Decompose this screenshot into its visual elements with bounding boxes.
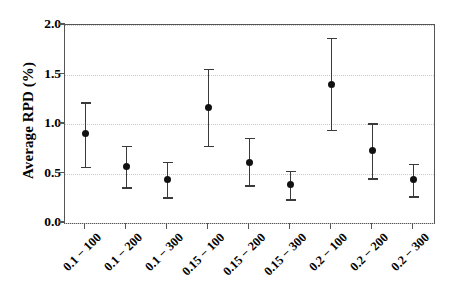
gridline-y bbox=[65, 25, 434, 26]
x-axis-tick-mark bbox=[371, 223, 372, 229]
x-axis-tick-label: 0.15 − 100 bbox=[179, 231, 226, 278]
errorbar-cap-lower bbox=[245, 185, 255, 187]
data-point-marker bbox=[328, 81, 335, 88]
x-axis-tick-label: 0.15 − 200 bbox=[220, 231, 267, 278]
errorbar-cap-upper bbox=[327, 38, 337, 40]
x-axis-tick-label: 0.15 − 300 bbox=[261, 231, 308, 278]
errorbar-cap-upper bbox=[409, 164, 419, 166]
data-point-marker bbox=[410, 176, 417, 183]
x-axis-tick-label: 0.1 − 100 bbox=[61, 231, 104, 274]
y-axis-title-text: Average RPD (%) bbox=[20, 62, 37, 179]
errorbar-cap-upper bbox=[122, 146, 132, 148]
errorbar-cap-lower bbox=[409, 196, 419, 198]
errorbar-cap-lower bbox=[81, 167, 91, 169]
data-point-marker bbox=[205, 104, 212, 111]
x-axis-tick-marks bbox=[64, 223, 433, 231]
errorbar-cap-upper bbox=[286, 171, 296, 173]
errorbar-cap-lower bbox=[368, 178, 378, 180]
x-axis-tick-label: 0.1 − 200 bbox=[102, 231, 145, 274]
data-point-marker bbox=[82, 130, 89, 137]
chart-figure: Average RPD (%) 0.00.51.01.52.0 0.1 − 10… bbox=[0, 0, 453, 300]
errorbar-cap-lower bbox=[327, 130, 337, 132]
x-axis-tick-mark bbox=[330, 223, 331, 229]
data-point-marker bbox=[287, 181, 294, 188]
errorbar-cap-upper bbox=[204, 69, 214, 71]
x-axis-tick-labels: 0.1 − 1000.1 − 2000.1 − 3000.15 − 1000.1… bbox=[64, 231, 433, 299]
errorbar-cap-lower bbox=[286, 199, 296, 201]
gridline-y bbox=[65, 124, 434, 125]
data-point-marker bbox=[123, 163, 130, 170]
x-axis-tick-mark bbox=[166, 223, 167, 229]
x-axis-tick-mark bbox=[125, 223, 126, 229]
gridline-y bbox=[65, 75, 434, 76]
data-point-marker bbox=[164, 176, 171, 183]
errorbar-cap-upper bbox=[163, 162, 173, 164]
x-axis-tick-mark bbox=[289, 223, 290, 229]
errorbar-cap-upper bbox=[245, 138, 255, 140]
x-axis-tick-mark bbox=[248, 223, 249, 229]
data-point-marker bbox=[369, 147, 376, 154]
x-axis-tick-label: 0.2 − 100 bbox=[307, 231, 350, 274]
errorbar-cap-upper bbox=[368, 123, 378, 125]
errorbar-cap-upper bbox=[81, 102, 91, 104]
errorbar-cap-lower bbox=[122, 187, 132, 189]
data-point-marker bbox=[246, 159, 253, 166]
errorbar-cap-lower bbox=[163, 197, 173, 199]
plot-area bbox=[64, 24, 435, 224]
x-axis-tick-mark bbox=[412, 223, 413, 229]
x-axis-tick-mark bbox=[207, 223, 208, 229]
x-axis-tick-mark bbox=[84, 223, 85, 229]
errorbar-cap-lower bbox=[204, 146, 214, 148]
x-axis-tick-label: 0.2 − 300 bbox=[389, 231, 432, 274]
x-axis-tick-label: 0.2 − 200 bbox=[348, 231, 391, 274]
